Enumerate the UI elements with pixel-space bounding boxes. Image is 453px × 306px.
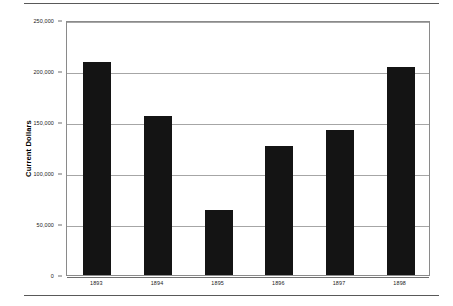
bar-1897: [326, 130, 354, 275]
gridline: [67, 277, 429, 278]
y-axis-tick-mark: [58, 276, 62, 277]
y-axis-tick-mark: [58, 123, 62, 124]
y-axis-tick-mark: [58, 174, 62, 175]
x-axis-tick-label: 1894: [151, 280, 164, 286]
x-axis-tick-label: 1895: [211, 280, 224, 286]
x-axis-tick-label: 1893: [90, 280, 103, 286]
bar-1896: [265, 146, 293, 275]
y-axis-tick-label: 200,000: [33, 69, 54, 75]
x-axis-tick-label: 1896: [272, 280, 285, 286]
x-axis-tick-label: 1898: [393, 280, 406, 286]
y-axis-tick-label: 150,000: [33, 120, 54, 126]
bar-1895: [205, 210, 233, 275]
y-axis-tick-mark: [58, 21, 62, 22]
y-axis-tick-mark: [58, 72, 62, 73]
bar-series: [67, 22, 429, 275]
bar-1894: [144, 116, 172, 275]
y-axis-tick-label: 100,000: [33, 171, 54, 177]
x-axis-tick-labels: 189318941895189618971898: [66, 280, 430, 292]
bar-1893: [83, 62, 111, 275]
bottom-horizontal-rule: [24, 295, 439, 296]
x-axis-tick-label: 1897: [333, 280, 346, 286]
top-horizontal-rule: [24, 3, 439, 4]
plot-area: [66, 21, 430, 276]
y-axis-tick-labels: 050,000100,000150,000200,000250,000: [0, 21, 62, 276]
bar-chart-figure: Current Dollars 050,000100,000150,000200…: [0, 0, 453, 306]
y-axis-tick-label: 0: [51, 273, 54, 279]
y-axis-tick-mark: [58, 225, 62, 226]
y-axis-tick-label: 250,000: [33, 18, 54, 24]
y-axis-tick-label: 50,000: [37, 222, 54, 228]
bar-1898: [387, 67, 415, 275]
